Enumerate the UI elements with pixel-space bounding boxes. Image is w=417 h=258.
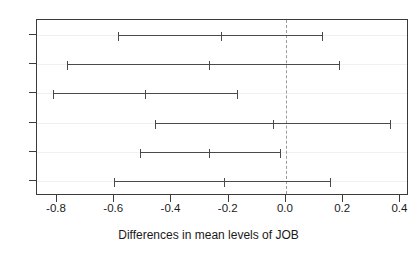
confidence-interval bbox=[67, 64, 340, 65]
y-axis-tick bbox=[29, 180, 36, 181]
x-axis-tick bbox=[285, 195, 286, 202]
x-axis-tick bbox=[113, 195, 114, 202]
interval-cap-left bbox=[118, 32, 119, 41]
plot-area bbox=[36, 19, 408, 195]
x-axis-label: Differences in mean levels of JOB bbox=[0, 228, 417, 242]
x-axis-tick bbox=[170, 195, 171, 202]
estimate-marker bbox=[221, 32, 222, 41]
x-axis-tick-label: -0.6 bbox=[103, 202, 123, 214]
y-axis-tick bbox=[29, 122, 36, 123]
x-axis-tick-label: -0.4 bbox=[161, 202, 181, 214]
confidence-interval bbox=[140, 152, 281, 153]
estimate-marker bbox=[209, 149, 210, 158]
x-axis-tick bbox=[228, 195, 229, 202]
interval-cap-right bbox=[339, 61, 340, 70]
chart-root: -0.8-0.6-0.4-0.20.00.20.4 總任 - 科任 科任 - 組… bbox=[0, 0, 417, 258]
x-axis-tick bbox=[56, 195, 57, 202]
y-axis-tick bbox=[29, 151, 36, 152]
x-axis-tick bbox=[399, 195, 400, 202]
confidence-interval bbox=[53, 93, 238, 94]
y-axis-tick bbox=[29, 92, 36, 93]
zero-reference-line bbox=[286, 20, 287, 194]
y-axis-tick bbox=[29, 63, 36, 64]
estimate-marker bbox=[273, 120, 274, 129]
interval-cap-left bbox=[140, 149, 141, 158]
confidence-interval bbox=[114, 181, 330, 182]
interval-cap-right bbox=[322, 32, 323, 41]
interval-cap-left bbox=[114, 178, 115, 187]
confidence-interval bbox=[118, 35, 323, 36]
estimate-marker bbox=[209, 61, 210, 70]
x-axis-tick-label: -0.8 bbox=[46, 202, 66, 214]
interval-cap-right bbox=[330, 178, 331, 187]
estimate-marker bbox=[145, 90, 146, 99]
x-axis-tick-label: 0.2 bbox=[334, 202, 350, 214]
x-axis-tick-label: 0.0 bbox=[277, 202, 293, 214]
confidence-interval bbox=[155, 123, 391, 124]
interval-cap-right bbox=[390, 120, 391, 129]
x-axis-tick-label: -0.2 bbox=[218, 202, 238, 214]
interval-cap-right bbox=[280, 149, 281, 158]
interval-cap-left bbox=[155, 120, 156, 129]
estimate-marker bbox=[224, 178, 225, 187]
interval-cap-right bbox=[237, 90, 238, 99]
interval-cap-left bbox=[53, 90, 54, 99]
interval-cap-left bbox=[67, 61, 68, 70]
x-axis-tick bbox=[342, 195, 343, 202]
y-axis-tick bbox=[29, 34, 36, 35]
x-axis-tick-label: 0.4 bbox=[391, 202, 407, 214]
